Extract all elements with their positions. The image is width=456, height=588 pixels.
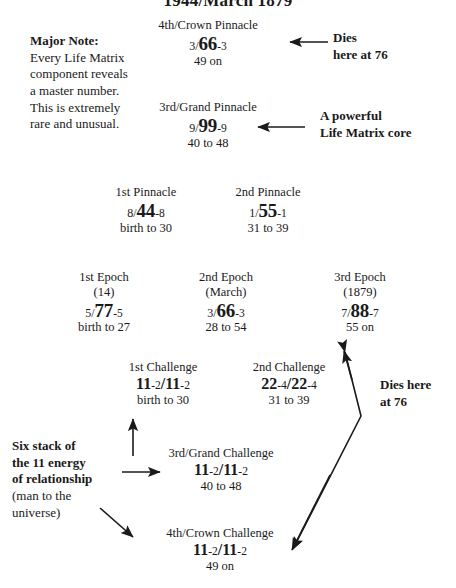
node-number: 11-2/11-2 bbox=[98, 376, 228, 393]
node-header: 2nd Pinnacle bbox=[208, 185, 328, 200]
dies-top-line-1: Dies bbox=[333, 30, 388, 47]
major-note-line-1: Every Life Matrix bbox=[30, 50, 128, 67]
six-stack-note: Six stack of the 11 energy of relationsh… bbox=[12, 438, 92, 521]
number-suffix: -9 bbox=[217, 122, 227, 134]
node-header: 3rd Epoch bbox=[300, 270, 420, 285]
node-3rd-grand-challenge: 3rd/Grand Challenge 11-2/11-2 40 to 48 bbox=[146, 446, 296, 493]
node-1st-challenge: 1st Challenge 11-2/11-2 birth to 30 bbox=[98, 360, 228, 407]
number-left-suffix: -2 bbox=[151, 379, 161, 391]
six-stack-line-5: universe) bbox=[12, 505, 92, 522]
node-range: 49 on bbox=[128, 54, 288, 69]
number-left-master: 11 bbox=[194, 461, 209, 478]
number-right-suffix: -2 bbox=[180, 379, 190, 391]
arrow-sixstack-to-crown-challenge bbox=[100, 508, 133, 537]
major-note-line-3: a master number. bbox=[30, 83, 128, 100]
number-master: 77 bbox=[95, 300, 114, 321]
number-prefix: 3/ bbox=[207, 306, 216, 320]
node-number: 22-4/22-4 bbox=[224, 376, 354, 393]
node-number: 9/99-9 bbox=[128, 116, 288, 136]
number-left-suffix: -2 bbox=[208, 545, 218, 557]
number-suffix: -5 bbox=[113, 307, 123, 319]
node-range: birth to 30 bbox=[98, 393, 228, 408]
number-right-master: 22 bbox=[291, 375, 307, 392]
node-range: 40 to 48 bbox=[146, 479, 296, 494]
node-header: 1st Pinnacle bbox=[86, 185, 206, 200]
number-master: 55 bbox=[259, 200, 278, 221]
six-stack-line-2: the 11 energy bbox=[12, 455, 92, 472]
six-stack-line-1: Six stack of bbox=[12, 438, 92, 455]
dies-top-line-2: here at 76 bbox=[333, 47, 388, 64]
node-range: 49 on bbox=[140, 559, 300, 574]
dies-here-at-76-side-note: Dies here at 76 bbox=[380, 377, 431, 410]
number-right-suffix: -2 bbox=[238, 465, 248, 477]
number-master: 88 bbox=[351, 300, 370, 321]
six-stack-line-3: of relationship bbox=[12, 471, 92, 488]
major-note: Major Note: Every Life Matrix component … bbox=[30, 33, 128, 133]
node-3rd-grand-pinnacle: 3rd/Grand Pinnacle 9/99-9 40 to 48 bbox=[128, 100, 288, 150]
page-title: 1944/March 1879 bbox=[0, 0, 456, 11]
number-prefix: 3/ bbox=[189, 39, 198, 53]
number-left-master: 11 bbox=[193, 541, 208, 558]
node-header: 2nd Challenge bbox=[224, 360, 354, 375]
number-left-suffix: -2 bbox=[209, 465, 219, 477]
node-4th-crown-pinnacle: 4th/Crown Pinnacle 3/66-3 49 on bbox=[128, 18, 288, 68]
node-2nd-pinnacle: 2nd Pinnacle 1/55-1 31 to 39 bbox=[208, 185, 328, 235]
six-stack-line-4: (man to the bbox=[12, 488, 92, 505]
node-header: 4th/Crown Pinnacle bbox=[128, 18, 288, 33]
node-number: 7/88-7 bbox=[300, 301, 420, 321]
number-right-master: 11 bbox=[165, 375, 180, 392]
core-note-line-1: A powerful bbox=[320, 108, 411, 125]
node-range: 40 to 48 bbox=[128, 136, 288, 151]
number-master: 66 bbox=[217, 300, 236, 321]
number-left-master: 22 bbox=[261, 375, 277, 392]
number-suffix: -3 bbox=[217, 40, 227, 52]
number-prefix: 5/ bbox=[85, 306, 94, 320]
node-number: 3/66-3 bbox=[166, 301, 286, 321]
major-note-heading: Major Note: bbox=[30, 33, 128, 50]
node-2nd-challenge: 2nd Challenge 22-4/22-4 31 to 39 bbox=[224, 360, 354, 407]
node-number: 5/77-5 bbox=[44, 301, 164, 321]
node-number: 8/44-8 bbox=[86, 201, 206, 221]
node-2nd-epoch: 2nd Epoch (March) 3/66-3 28 to 54 bbox=[166, 270, 286, 335]
node-1st-epoch: 1st Epoch (14) 5/77-5 birth to 27 bbox=[44, 270, 164, 335]
number-left-suffix: -4 bbox=[277, 379, 287, 391]
node-range: 28 to 54 bbox=[166, 320, 286, 335]
number-master: 66 bbox=[199, 33, 218, 54]
node-4th-crown-challenge: 4th/Crown Challenge 11-2/11-2 49 on bbox=[140, 526, 300, 573]
node-number: 11-2/11-2 bbox=[146, 462, 296, 479]
node-number: 11-2/11-2 bbox=[140, 542, 300, 559]
number-master: 99 bbox=[199, 115, 218, 136]
node-header: 2nd Epoch bbox=[166, 270, 286, 285]
core-note-line-2: Life Matrix core bbox=[320, 125, 411, 142]
node-header: 1st Challenge bbox=[98, 360, 228, 375]
major-note-line-2: component reveals bbox=[30, 66, 128, 83]
node-range: 55 on bbox=[300, 320, 420, 335]
number-prefix: 1/ bbox=[249, 206, 258, 220]
number-prefix: 7/ bbox=[341, 306, 350, 320]
dies-side-line-1: Dies here bbox=[380, 377, 431, 394]
node-header: 3rd/Grand Pinnacle bbox=[128, 100, 288, 115]
number-prefix: 9/ bbox=[189, 121, 198, 135]
node-range: birth to 30 bbox=[86, 221, 206, 236]
number-suffix: -7 bbox=[369, 307, 379, 319]
life-matrix-core-note: A powerful Life Matrix core bbox=[320, 108, 411, 141]
node-number: 1/55-1 bbox=[208, 201, 328, 221]
number-suffix: -3 bbox=[235, 307, 245, 319]
node-3rd-epoch: 3rd Epoch (1879) 7/88-7 55 on bbox=[300, 270, 420, 335]
number-right-suffix: -4 bbox=[307, 379, 317, 391]
node-subheader: (March) bbox=[166, 285, 286, 300]
number-prefix: 8/ bbox=[127, 206, 136, 220]
node-subheader: (1879) bbox=[300, 285, 420, 300]
node-header: 4th/Crown Challenge bbox=[140, 526, 300, 541]
major-note-line-4: This is extremely bbox=[30, 100, 128, 117]
number-suffix: -8 bbox=[155, 207, 165, 219]
node-range: birth to 27 bbox=[44, 320, 164, 335]
node-number: 3/66-3 bbox=[128, 34, 288, 54]
node-range: 31 to 39 bbox=[224, 393, 354, 408]
dies-side-line-2: at 76 bbox=[380, 394, 431, 411]
node-subheader: (14) bbox=[44, 285, 164, 300]
dies-here-at-76-top-note: Dies here at 76 bbox=[333, 30, 388, 63]
node-1st-pinnacle: 1st Pinnacle 8/44-8 birth to 30 bbox=[86, 185, 206, 235]
node-header: 3rd/Grand Challenge bbox=[146, 446, 296, 461]
number-left-master: 11 bbox=[136, 375, 151, 392]
